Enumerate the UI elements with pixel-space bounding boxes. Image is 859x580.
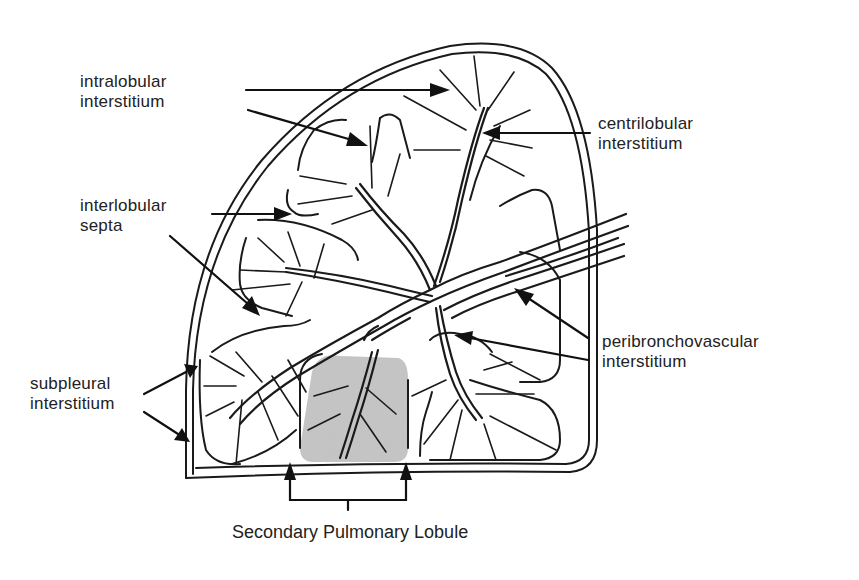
label-intralobular-interstitium: intralobular interstitium: [80, 72, 167, 112]
label-line: centrilobular: [598, 114, 693, 134]
label-subpleural-interstitium: subpleural interstitium: [30, 374, 115, 414]
label-centrilobular-interstitium: centrilobular interstitium: [598, 114, 693, 154]
label-line: peribronchovascular: [602, 332, 759, 352]
figure-caption: Secondary Pulmonary Lobule: [232, 522, 468, 543]
label-line: interstitium: [80, 92, 167, 112]
label-line: interstitium: [602, 352, 759, 372]
label-line: interstitium: [30, 394, 115, 414]
label-peribronchovascular-interstitium: peribronchovascular interstitium: [602, 332, 759, 372]
label-line: septa: [80, 216, 167, 236]
label-line: intralobular: [80, 72, 167, 92]
label-line: subpleural: [30, 374, 115, 394]
label-line: interlobular: [80, 196, 167, 216]
label-line: interstitium: [598, 134, 693, 154]
lobule-bracket: [284, 462, 412, 510]
lung-interstitium-diagram: intralobular interstitium centrilobular …: [0, 0, 859, 580]
label-interlobular-septa: interlobular septa: [80, 196, 167, 236]
shaded-lobule: [300, 355, 408, 462]
